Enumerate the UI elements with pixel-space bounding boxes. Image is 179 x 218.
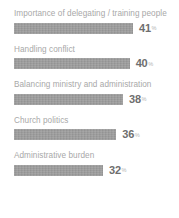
bar-value: 40% xyxy=(136,58,153,69)
bar-label: Handling conflict xyxy=(0,45,179,56)
bar-fill xyxy=(14,165,103,176)
percent-sign: % xyxy=(121,165,126,176)
bar-line: 32% xyxy=(0,165,179,176)
bar-value-number: 41 xyxy=(139,23,151,34)
percent-sign: % xyxy=(151,23,156,34)
bar-line: 36% xyxy=(0,129,179,140)
bar-value-number: 32 xyxy=(109,165,121,176)
bar-label: Church politics xyxy=(0,116,179,127)
bar-fill xyxy=(14,94,123,105)
bar-line: 38% xyxy=(0,94,179,105)
bar-label: Balancing ministry and administration xyxy=(0,80,179,91)
bar-value-number: 36 xyxy=(122,129,134,140)
row-spacer xyxy=(0,34,179,45)
bar-value-number: 38 xyxy=(129,94,141,105)
bar-value: 36% xyxy=(122,129,139,140)
row-spacer xyxy=(0,69,179,80)
bar-row: Administrative burden 32% xyxy=(0,151,179,176)
bar-line: 41% xyxy=(0,23,179,34)
bar-row: Importance of delegating / training peop… xyxy=(0,9,179,34)
percent-sign: % xyxy=(148,59,153,70)
percent-sign: % xyxy=(135,130,140,141)
row-spacer xyxy=(0,105,179,116)
bar-row: Handling conflict 40% xyxy=(0,45,179,70)
bar-value-number: 40 xyxy=(136,58,148,69)
percent-sign: % xyxy=(141,94,146,105)
bar-label: Importance of delegating / training peop… xyxy=(0,9,179,20)
horizontal-bar-chart: Importance of delegating / training peop… xyxy=(0,0,179,218)
bar-fill xyxy=(14,129,116,140)
bar-fill xyxy=(14,23,133,34)
bar-row: Church politics 36% xyxy=(0,116,179,141)
bar-value: 32% xyxy=(109,165,126,176)
bar-line: 40% xyxy=(0,58,179,69)
bar-row: Balancing ministry and administration 38… xyxy=(0,80,179,105)
row-spacer xyxy=(0,140,179,151)
bar-value: 41% xyxy=(139,23,156,34)
bar-label: Administrative burden xyxy=(0,151,179,162)
bar-fill xyxy=(14,58,130,69)
bar-value: 38% xyxy=(129,94,146,105)
